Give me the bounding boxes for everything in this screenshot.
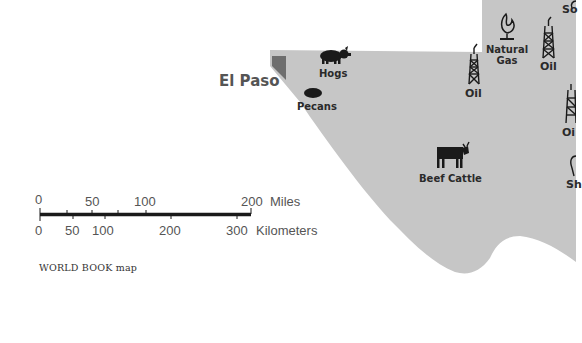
label-hogs: Hogs <box>319 68 347 79</box>
scale-km-50: 50 <box>65 223 79 238</box>
scale-bar <box>40 208 251 221</box>
label-natural-gas-line2: Gas <box>484 55 530 66</box>
scale-km-unit: Kilometers <box>256 223 317 238</box>
label-sorghum: So <box>562 4 577 15</box>
label-oil-1: Oil <box>465 88 482 99</box>
map-credit: WORLD BOOK map <box>39 262 137 273</box>
label-beef-cattle: Beef Cattle <box>419 173 482 184</box>
label-natural-gas-line1: Natural <box>484 44 530 55</box>
scale-miles-unit: Miles <box>270 194 300 209</box>
scale-miles-0: 0 <box>35 192 42 207</box>
pecan-icon <box>304 88 322 98</box>
city-label-el-paso: El Paso <box>219 72 280 90</box>
label-oil-3: Oi <box>562 127 575 138</box>
label-sheep: Sh <box>566 179 582 190</box>
scale-km-0: 0 <box>35 223 42 238</box>
scale-miles-50: 50 <box>85 194 99 209</box>
scale-km-200: 200 <box>159 223 181 238</box>
scale-km-100: 100 <box>92 223 114 238</box>
scale-miles-200: 200 <box>241 194 263 209</box>
scale-km-300: 300 <box>226 223 248 238</box>
label-pecans: Pecans <box>297 101 337 112</box>
label-oil-2: Oil <box>540 61 557 72</box>
label-natural-gas: Natural Gas <box>484 44 530 66</box>
scale-miles-100: 100 <box>134 194 156 209</box>
